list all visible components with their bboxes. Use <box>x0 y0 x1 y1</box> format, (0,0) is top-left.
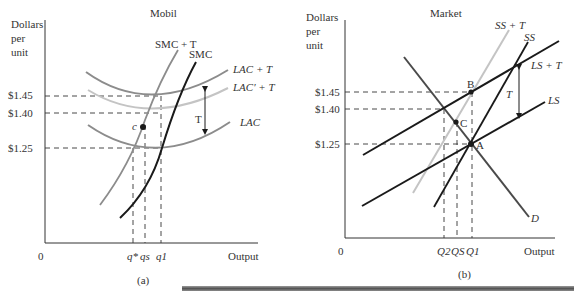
tax-label-b: T <box>506 88 513 100</box>
smc-curve <box>120 62 196 218</box>
point-a <box>468 141 474 147</box>
tax-label-a: T <box>195 113 202 125</box>
smc-plus-t-curve <box>100 50 178 205</box>
origin-b: 0 <box>338 245 344 257</box>
point-c-label: c <box>132 120 137 132</box>
xlabel-a: Output <box>228 250 259 262</box>
tick-a-125: $1.25 <box>8 142 33 154</box>
point-b-label: B <box>467 78 474 90</box>
tick-a-q1: q1 <box>156 250 167 262</box>
lac-prime-t-label: LAC′ + T <box>232 81 276 93</box>
point-b <box>468 89 473 94</box>
ls-curve <box>362 102 545 206</box>
caption-b: (b) <box>458 268 471 281</box>
tick-a-145: $1.45 <box>8 89 33 101</box>
ylabel-a-1: Dollars <box>11 18 43 30</box>
tick-a-qs: qs <box>140 250 150 262</box>
lac-prime-plus-t-curve <box>88 88 228 109</box>
lac-t-label: LAC + T <box>232 63 273 75</box>
lac-label: LAC <box>239 116 261 128</box>
tick-b-q2: Q2 <box>437 245 451 257</box>
xlabel-b: Output <box>524 245 555 257</box>
origin-a: 0 <box>38 250 44 262</box>
ylabel-b-2: per <box>306 25 320 37</box>
ylabel-b-3: unit <box>306 39 323 51</box>
ylabel-b-1: Dollars <box>306 11 338 23</box>
tick-b-qs: QS <box>451 245 465 257</box>
point-c <box>140 124 146 130</box>
guide-lines <box>45 96 162 243</box>
ylabel-a-2: per <box>11 32 25 44</box>
ls-t-label: LS + T <box>530 59 563 71</box>
tick-b-125: $1.25 <box>315 138 340 150</box>
panel-a: c T Mobil Dollars per unit SMC + T SMC L… <box>8 7 276 287</box>
tick-a-qstar: q* <box>127 250 139 262</box>
ylabel-a-3: unit <box>11 46 28 58</box>
demand-label: D <box>530 212 539 224</box>
point-a-label: A <box>476 139 484 151</box>
tick-b-q1: Q1 <box>466 245 479 257</box>
title-b: Market <box>430 7 462 19</box>
smc-label: SMC <box>189 48 212 60</box>
guide-lines <box>345 92 472 238</box>
tick-b-145: $1.45 <box>315 86 340 98</box>
point-c <box>453 119 458 124</box>
point-c-label: C <box>460 117 467 129</box>
diagram-canvas: c T Mobil Dollars per unit SMC + T SMC L… <box>0 0 574 296</box>
lac-curve <box>88 122 230 148</box>
tick-a-140: $1.40 <box>8 107 33 119</box>
bottom-rule <box>182 286 574 291</box>
ss-label: SS <box>524 31 536 43</box>
ls-label: LS <box>547 94 560 106</box>
panel-b: T B C A Market Dollars per unit SS + T S… <box>306 7 563 281</box>
caption-a: (a) <box>137 274 150 287</box>
tick-b-140: $1.40 <box>315 103 340 115</box>
ss-t-label: SS + T <box>495 19 526 31</box>
title-a: Mobil <box>150 7 177 19</box>
ls-plus-t-curve <box>363 41 559 155</box>
